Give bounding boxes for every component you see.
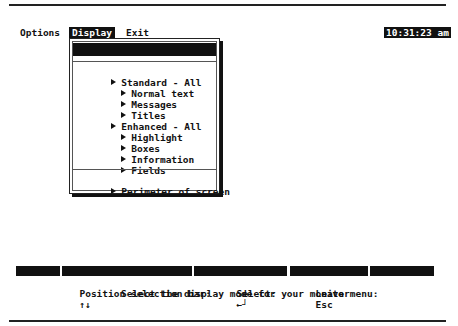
clock: 10:31:23 am (384, 27, 451, 38)
separator (73, 169, 216, 170)
menu-item-standard-all[interactable]: Standard - All (77, 66, 201, 77)
menu-item-enhanced-all[interactable]: Enhanced - All (77, 110, 201, 121)
function-key-bar-5 (370, 266, 434, 276)
select-help: Select: ←┘ (225, 277, 277, 288)
enter-key-icon: ←┘ (236, 299, 247, 310)
menu-item-highlight[interactable]: Highlight (87, 121, 183, 132)
menu-item-boxes[interactable]: Boxes (87, 132, 160, 143)
menu-options[interactable]: Options (17, 27, 63, 38)
top-rule (9, 4, 446, 6)
function-key-bar-2 (62, 266, 192, 276)
leave-help: Leave menu: Esc (304, 277, 378, 288)
menu-item-normal-text[interactable]: Normal text (87, 77, 194, 88)
display-dropdown-menu: Display mode MONO Standard - All Normal … (69, 38, 220, 194)
separator (73, 61, 216, 62)
menu-exit[interactable]: Exit (123, 27, 152, 38)
esc-key: Esc (315, 299, 332, 310)
bottom-rule (9, 320, 446, 322)
menu-display[interactable]: Display (69, 27, 115, 38)
key-help-line: Position selection bar: ↑↓ (68, 277, 211, 288)
function-key-bar-3 (194, 266, 287, 276)
menu-item-titles[interactable]: Titles (87, 99, 166, 110)
display-mode-header[interactable]: Display mode MONO (73, 43, 216, 56)
menu-item-messages[interactable]: Messages (87, 88, 177, 99)
arrow-up-down-icon: ↑↓ (79, 299, 90, 310)
menu-item-perimeter-of-screen[interactable]: Perimeter of screen (77, 175, 230, 186)
menu-item-information[interactable]: Information (87, 143, 194, 154)
triangle-right-icon (111, 188, 116, 194)
function-key-bar-1 (16, 266, 60, 276)
help-text: Select the display mode for your monitor (121, 288, 350, 299)
triangle-right-icon (121, 167, 126, 173)
function-key-bar-4 (290, 266, 368, 276)
menu-item-fields[interactable]: Fields (87, 154, 166, 165)
